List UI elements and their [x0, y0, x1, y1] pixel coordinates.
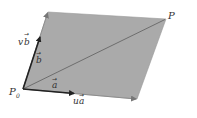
- arrow-over-a-icon: →: [52, 75, 57, 82]
- parallelogram-region: [23, 12, 166, 99]
- parallelogram-diagram: P P 0 a → b → u a → v b →: [0, 0, 197, 118]
- label-p0: P: [8, 86, 16, 97]
- arrow-over-b-icon: →: [36, 49, 41, 56]
- label-p0-subscript: 0: [16, 92, 20, 99]
- arrow-over-vb-icon: →: [24, 30, 29, 37]
- label-vb-coef: v: [18, 37, 23, 47]
- label-p: P: [167, 10, 175, 21]
- label-vb-vec: b: [24, 37, 30, 47]
- arrow-over-ua-icon: →: [79, 91, 84, 98]
- label-b: b: [36, 55, 42, 65]
